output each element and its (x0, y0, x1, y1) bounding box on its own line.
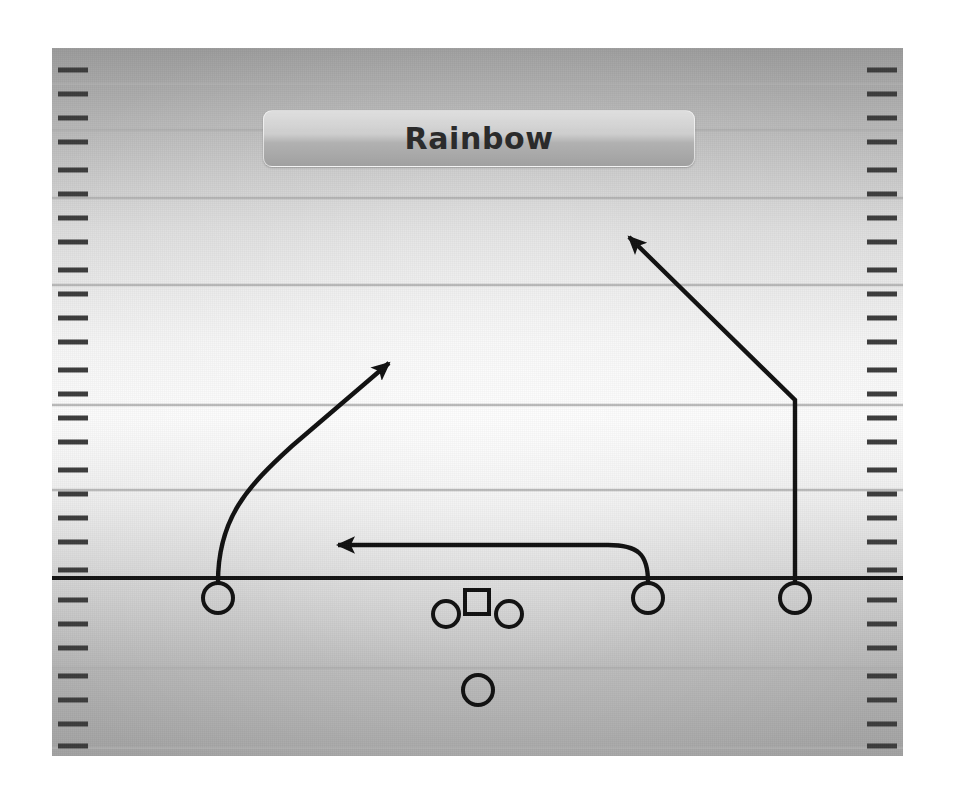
play-title-banner: Rainbow (263, 110, 695, 167)
play-diagram-canvas: Rainbow (0, 0, 953, 802)
play-title: Rainbow (405, 124, 554, 154)
